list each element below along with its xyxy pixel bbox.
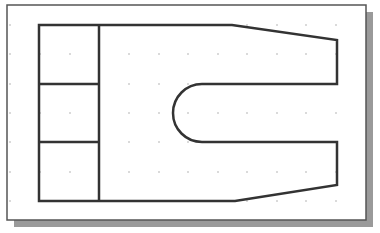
grid-dot [335,200,336,201]
grid-dot [305,200,306,201]
grid-dot [305,24,306,25]
grid-dot [335,112,336,113]
grid-dot [187,112,188,113]
grid-dot [9,141,10,142]
grid-dot [246,200,247,201]
grid-dot [335,24,336,25]
grid-dot [69,112,70,113]
grid-dot [158,53,159,54]
grid-dot [187,171,188,172]
grid-dot [9,200,10,201]
grid-dot [128,53,129,54]
grid-dot [276,171,277,172]
grid-dot [69,171,70,172]
grid-dot [128,83,129,84]
grid-dot [217,171,218,172]
grid-dot [276,112,277,113]
grid-dot [246,112,247,113]
grid-dot [305,112,306,113]
grid-dot [128,141,129,142]
grid-dot [246,53,247,54]
grid-dot [69,53,70,54]
grid-dot [9,24,10,25]
grid-dot [246,24,247,25]
grid-dot [158,171,159,172]
grid-dot [305,171,306,172]
drawing-canvas[interactable] [0,0,380,233]
grid-dot [128,112,129,113]
grid-dot [158,141,159,142]
grid-dot [217,112,218,113]
grid-dot [158,83,159,84]
grid-dot [158,112,159,113]
grid-dot [276,24,277,25]
grid-dot [305,53,306,54]
grid-dot [187,83,188,84]
grid-dot [9,171,10,172]
grid-dot [9,83,10,84]
grid-dot [9,53,10,54]
grid-dot [276,53,277,54]
grid-dot [9,112,10,113]
grid-dot [246,171,247,172]
grid-dot [187,53,188,54]
grid-dot [187,141,188,142]
grid-dot [128,171,129,172]
grid-dot [276,200,277,201]
grid-dot [217,53,218,54]
